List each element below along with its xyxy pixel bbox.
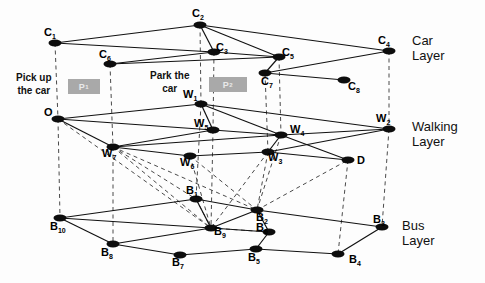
- node-C1[interactable]: [49, 40, 62, 47]
- node-label-W6: W6: [180, 157, 194, 170]
- node-label-B1: B1: [186, 185, 198, 198]
- node-B4[interactable]: [332, 251, 345, 258]
- dashed-edge-W6-B2: [190, 156, 257, 210]
- node-label-C4: C4: [378, 35, 390, 48]
- solid-edge-O-W1: [58, 104, 201, 119]
- dashed-edge-B2-D: [257, 160, 348, 210]
- node-label-W7: W7: [102, 148, 116, 161]
- node-label-B8: B8: [101, 247, 113, 260]
- action-label-park: Park thecar: [150, 70, 189, 95]
- node-label-B9: B9: [214, 226, 226, 239]
- node-label-C1: C1: [44, 27, 56, 40]
- solid-edge-B5-B4: [256, 249, 338, 254]
- node-label-D: D: [357, 155, 365, 166]
- node-label-B4: B4: [349, 254, 361, 267]
- dashed-edge-C1-O: [55, 43, 58, 119]
- action-node-pickup[interactable]: P1: [68, 79, 100, 94]
- solid-edge-W7-W6: [113, 147, 190, 156]
- node-D[interactable]: [342, 157, 355, 164]
- node-label-W3: W3: [268, 152, 282, 165]
- layer-label-walking: WalkingLayer: [412, 120, 458, 150]
- network-diagram: C1C2C3C4C5C6C7C8OW1W2W3W4W5W6W7DB1B2B3B4…: [0, 0, 485, 283]
- dashed-edge-W2-B3: [382, 129, 389, 227]
- dashed-edge-W5-B9: [211, 130, 213, 228]
- solid-edge-B10-B8: [60, 218, 113, 244]
- solid-edge-O-W7: [58, 119, 113, 147]
- solid-edge-B7-B5: [180, 249, 256, 255]
- node-label-W2: W2: [376, 113, 390, 126]
- node-C4[interactable]: [383, 48, 396, 55]
- node-W4[interactable]: [275, 132, 288, 139]
- node-label-W4: W4: [290, 124, 304, 137]
- dashed-edge-C5-W4: [279, 57, 281, 135]
- node-C2[interactable]: [194, 22, 207, 29]
- node-label-C7: C7: [261, 76, 273, 89]
- action-label-pickup: Pick upthe car: [16, 72, 52, 97]
- dashed-edge-O-B9: [58, 119, 211, 228]
- solid-edge-B10-B9: [60, 218, 211, 228]
- node-label-B6: B6: [256, 222, 268, 235]
- node-label-W5: W5: [194, 118, 208, 131]
- solid-edge-C1-C2: [55, 25, 200, 43]
- solid-edge-C2-C4: [200, 25, 389, 51]
- solid-edge-W6-W3: [190, 152, 268, 156]
- solid-edge-B9-B8: [113, 228, 211, 244]
- solid-edge-O-W5: [58, 119, 213, 130]
- node-label-C6: C6: [99, 49, 111, 62]
- solid-edge-B4-B3: [338, 227, 382, 254]
- solid-edge-W7-W5: [113, 130, 213, 147]
- node-W5[interactable]: [207, 127, 220, 134]
- node-label-B10: B10: [50, 221, 66, 234]
- dashed-edge-D-B4: [338, 160, 348, 254]
- node-label-B5: B5: [248, 252, 260, 265]
- node-label-O: O: [44, 107, 53, 118]
- solid-edge-C2-C3: [200, 25, 214, 52]
- layer-label-car: CarLayer: [412, 34, 445, 64]
- layer-label-bus: BusLayer: [402, 219, 435, 249]
- solid-edge-C7-C8: [265, 73, 344, 80]
- dashed-edge-C2-W1: [200, 25, 201, 104]
- node-W2[interactable]: [383, 126, 396, 133]
- node-O[interactable]: [52, 116, 65, 123]
- solid-edge-B2-B3: [257, 210, 382, 227]
- node-label-B7: B7: [172, 257, 184, 270]
- node-label-C3: C3: [216, 42, 228, 55]
- dashed-edge-C6-W7: [110, 64, 113, 147]
- action-node-park[interactable]: P2: [209, 77, 247, 92]
- solid-edge-B8-B7: [113, 244, 180, 255]
- solid-edge-W7-W4: [113, 135, 281, 147]
- dashed-edge-O-B10: [58, 119, 60, 218]
- solid-edge-B10-B1: [60, 199, 196, 218]
- node-label-C8: C8: [348, 81, 360, 94]
- node-label-B3: B3: [373, 214, 385, 227]
- node-label-C5: C5: [282, 47, 294, 60]
- node-label-C2: C2: [192, 8, 204, 21]
- solid-edge-C1-C3: [55, 43, 214, 52]
- solid-edge-B9-B1: [196, 199, 211, 228]
